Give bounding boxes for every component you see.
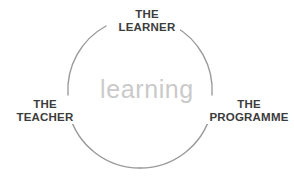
node-learner-line1: THE xyxy=(135,8,159,20)
node-label-learner: THE LEARNER xyxy=(99,7,195,34)
node-programme-line2: PROGRAMME xyxy=(208,111,290,124)
learning-cycle-diagram: THE LEARNER THE TEACHER THE PROGRAMME le… xyxy=(0,0,294,179)
node-teacher-line2: TEACHER xyxy=(7,111,83,124)
center-label-learning: learning xyxy=(0,76,294,103)
node-learner-line2: LEARNER xyxy=(119,21,176,34)
arc-programme-to-bottom xyxy=(140,113,211,168)
